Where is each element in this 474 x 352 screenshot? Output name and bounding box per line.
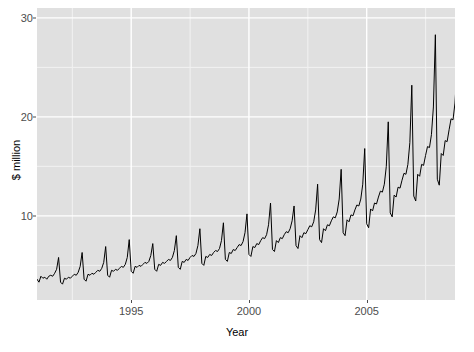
x-tick-mark bbox=[367, 300, 368, 303]
major-gridlines bbox=[37, 8, 455, 300]
x-tick-label: 1995 bbox=[119, 305, 143, 317]
x-tick-label: 2005 bbox=[354, 305, 378, 317]
x-tick-mark bbox=[249, 300, 250, 303]
x-tick-label: 2000 bbox=[237, 305, 261, 317]
series-line bbox=[37, 19, 455, 284]
chart-container: 102030 199520002005 $ million Year bbox=[0, 0, 474, 352]
plot-panel bbox=[37, 8, 455, 300]
x-tick-mark bbox=[131, 300, 132, 303]
y-tick-mark bbox=[33, 116, 36, 117]
x-axis-title: Year bbox=[0, 326, 474, 338]
y-axis-title: $ million bbox=[10, 100, 22, 220]
y-tick-mark bbox=[33, 215, 36, 216]
plot-area bbox=[37, 8, 455, 300]
y-tick-mark bbox=[33, 17, 36, 18]
y-tick-label: 30 bbox=[3, 12, 33, 24]
minor-gridlines bbox=[37, 8, 455, 300]
